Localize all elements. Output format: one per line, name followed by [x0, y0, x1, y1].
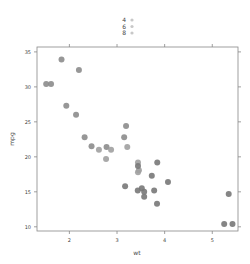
data-point-cyl-4	[43, 81, 49, 87]
x-axis: 2345	[68, 44, 214, 243]
data-point-cyl-6	[108, 147, 114, 153]
y-tick-label: 25	[25, 119, 31, 125]
data-point-cyl-4	[63, 103, 69, 109]
data-point-cyl-8	[154, 201, 160, 207]
data-point-cyl-6	[135, 169, 141, 175]
legend-marker	[130, 18, 133, 21]
data-point-cyl-8	[149, 173, 155, 179]
x-tick-label: 3	[115, 237, 118, 243]
plot-frame	[37, 47, 238, 231]
y-tick-label: 20	[25, 154, 31, 160]
data-point-cyl-6	[96, 147, 102, 153]
data-point-cyl-8	[165, 179, 171, 185]
y-tick-label: 10	[25, 224, 31, 230]
x-tick-label: 5	[211, 237, 214, 243]
data-point-cyl-8	[229, 221, 235, 227]
legend: 468	[122, 16, 133, 36]
legend-marker	[130, 31, 133, 34]
data-point-cyl-8	[122, 183, 128, 189]
scatter-chart: 468 101520253035 2345 wt mpg	[0, 0, 250, 264]
data-point-cyl-8	[135, 187, 141, 193]
data-point-cyl-8	[221, 221, 227, 227]
y-axis-label: mpg	[8, 132, 16, 146]
data-point-cyl-8	[151, 187, 157, 193]
data-points	[43, 57, 235, 227]
data-point-cyl-4	[76, 67, 82, 73]
legend-marker	[130, 25, 133, 28]
data-point-cyl-8	[135, 163, 141, 169]
data-point-cyl-4	[59, 57, 65, 63]
data-point-cyl-4	[89, 143, 95, 149]
x-axis-label: wt	[133, 249, 141, 256]
data-point-cyl-6	[124, 144, 130, 150]
data-point-cyl-4	[123, 123, 129, 129]
y-tick-label: 30	[25, 84, 31, 90]
data-point-cyl-4	[73, 112, 79, 118]
data-point-cyl-4	[82, 134, 88, 140]
data-point-cyl-6	[103, 156, 109, 162]
y-tick-label: 35	[25, 49, 31, 55]
y-tick-label: 15	[25, 189, 31, 195]
x-tick-label: 2	[68, 237, 71, 243]
y-axis: 101520253035	[25, 49, 241, 230]
data-point-cyl-8	[154, 159, 160, 165]
data-point-cyl-4	[121, 134, 127, 140]
x-tick-label: 4	[163, 237, 166, 243]
data-point-cyl-8	[226, 191, 232, 197]
legend-label: 8	[122, 29, 126, 36]
data-point-cyl-8	[141, 189, 147, 195]
